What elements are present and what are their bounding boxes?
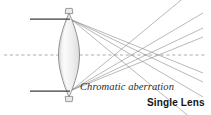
chromatic-aberration-figure: Chromatic aberration Single Lens <box>0 0 211 115</box>
upper-refracted-ray-bundle <box>72 20 203 115</box>
lower-refracted-ray-bundle <box>72 0 203 90</box>
lens-bottom-cap <box>65 96 73 101</box>
biconvex-lens-body <box>59 13 80 97</box>
lens-top-cap <box>65 8 73 13</box>
optics-diagram <box>0 0 211 115</box>
